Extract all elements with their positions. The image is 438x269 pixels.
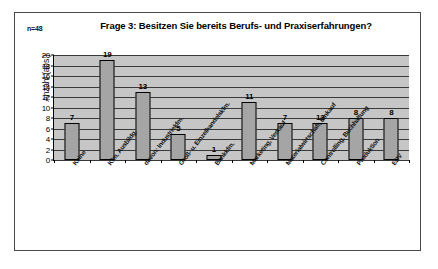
y-axis-title: Anzahl (abs.) [41, 38, 51, 118]
sample-size-annotation: n=48 [27, 25, 42, 32]
bar[interactable] [242, 102, 257, 160]
bar-value-label: 19 [103, 50, 111, 59]
chart-page: n=48 Frage 3: Besitzen Sie bereits Beruf… [0, 0, 438, 269]
y-tick-label: 2 [46, 145, 54, 154]
bar-value-label: 13 [139, 82, 147, 91]
y-tick-label: 6 [46, 124, 54, 133]
chart-frame: n=48 Frage 3: Besitzen Sie bereits Beruf… [14, 12, 421, 251]
x-tick-mark [409, 160, 410, 163]
x-axis-labels: KeineKfm. Ausbildg.davon: Industriekfm.G… [53, 162, 408, 242]
chart-title: Frage 3: Besitzen Sie bereits Berufs- un… [61, 20, 411, 31]
bar[interactable] [100, 60, 115, 160]
bar-slot: 8 [374, 55, 410, 160]
y-tick-label: 4 [46, 135, 54, 144]
bar-value-label: 7 [70, 113, 74, 122]
bar-value-label: 8 [389, 108, 393, 117]
bar-slot: 7 [54, 55, 90, 160]
bar[interactable] [135, 92, 150, 160]
bar-value-label: 1 [212, 145, 216, 154]
bar-value-label: 11 [245, 92, 253, 101]
